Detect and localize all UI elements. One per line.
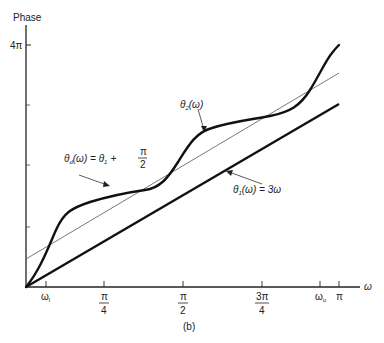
arrowhead-theta1 <box>226 170 233 176</box>
x-tick-label-pi2-den: 2 <box>180 305 186 316</box>
label-thetad: θd(ω) = θ1+ <box>64 153 116 165</box>
y-axis-label: Phase <box>13 12 42 23</box>
label-thetad-two: 2 <box>140 159 146 170</box>
x-tick-label-3pi4-num: 3π <box>256 291 269 302</box>
x-tick-label-pi4-den: 4 <box>101 305 107 316</box>
y-tick-label-4pi: 4π <box>10 40 23 51</box>
figure-caption: (b) <box>183 321 195 332</box>
label-theta2: θ2(ω) <box>180 99 203 111</box>
x-tick-label-pi4-num: π <box>101 291 108 302</box>
label-theta1: θ1(ω) = 3ω <box>233 184 281 196</box>
x-tick-label-pi: π <box>336 291 343 302</box>
x-tick-label-pi2-num: π <box>180 291 187 302</box>
arrowhead-thetad <box>103 181 110 187</box>
x-tick-label-wl: ωl <box>41 291 50 303</box>
phase-chart: Phase 4π ω ωl π 4 π 2 3π 4 ωu π θ2(ω) θd… <box>0 0 384 343</box>
x-tick-label-3pi4-den: 4 <box>259 305 265 316</box>
x-tick-label-wu: ωu <box>315 291 326 303</box>
arrow-thetad <box>79 175 107 185</box>
arrow-theta1 <box>229 172 262 184</box>
series-theta-1 <box>26 104 339 287</box>
x-axis-label: ω <box>364 281 372 292</box>
label-thetad-pi: π <box>140 146 147 157</box>
